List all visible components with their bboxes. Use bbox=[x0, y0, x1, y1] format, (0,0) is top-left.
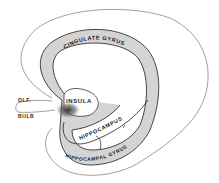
label-bulb: BULB bbox=[18, 113, 34, 119]
shaded-area bbox=[56, 102, 80, 118]
label-olf: OLF. bbox=[18, 97, 31, 103]
label-insula: INSULA bbox=[66, 98, 92, 104]
limbic-system-diagram: CINGULATE GYRUS INSULA OLF. BULB HIPPOCA… bbox=[0, 0, 219, 183]
